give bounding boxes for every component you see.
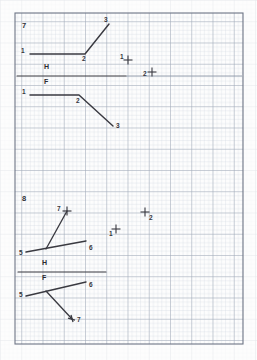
worksheet-canvas xyxy=(0,0,257,360)
worksheet-sheet: 7 H F 1 2 3 1 2 3 1 2 8 H F 5 6 7 5 6 7 … xyxy=(0,0,257,360)
